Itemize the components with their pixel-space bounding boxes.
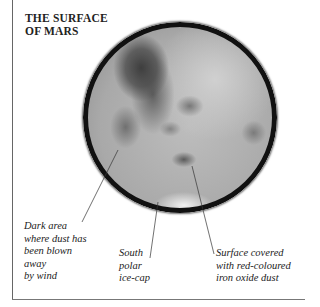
label-dark-area-line-4: away bbox=[24, 258, 87, 271]
leader-surface-dust bbox=[192, 166, 214, 254]
label-surface-line-3: iron oxide dust bbox=[216, 272, 291, 285]
label-dark-area-line-2: where dust has bbox=[24, 233, 87, 246]
leader-dark-area bbox=[82, 150, 118, 222]
label-surface-line-1: Surface covered bbox=[216, 247, 291, 260]
label-dark-area-line-5: by wind bbox=[24, 270, 87, 283]
label-ice-cap-line-1: South bbox=[119, 247, 150, 260]
label-dark-area-line-1: Dark area bbox=[24, 220, 87, 233]
label-dark-area: Dark area where dust has been blown away… bbox=[24, 220, 87, 283]
label-surface-dust: Surface covered with red-coloured iron o… bbox=[216, 247, 291, 285]
label-ice-cap-line-2: polar bbox=[119, 260, 150, 273]
label-south-polar-ice-cap: South polar ice-cap bbox=[119, 247, 150, 285]
label-ice-cap-line-3: ice-cap bbox=[119, 272, 150, 285]
label-dark-area-line-3: been blown bbox=[24, 245, 87, 258]
leader-south-polar-ice-cap bbox=[150, 202, 158, 258]
label-surface-line-2: with red-coloured bbox=[216, 260, 291, 273]
